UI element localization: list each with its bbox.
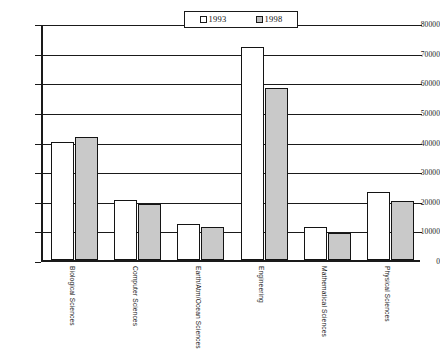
bar-1998-mathematical-sciences: [328, 233, 351, 260]
legend-item-1998: 1998: [256, 15, 283, 24]
bar-1998-biological-sciences: [75, 137, 98, 260]
bar-chart: 0100002000030000400005000060000700008000…: [0, 0, 440, 352]
gridline: [43, 144, 422, 145]
white-square-icon: [200, 16, 207, 23]
bar-1993-computer-sciences: [114, 200, 137, 260]
gridline: [43, 114, 422, 115]
plot-area: [41, 25, 420, 262]
legend-item-1993: 1993: [200, 15, 227, 24]
x-axis-label: Mathematical Sciences: [321, 266, 328, 337]
x-axis-label-group: Biological Sciences: [67, 266, 79, 350]
x-axis-label: Earth/Atm/Ocean Sciences: [195, 266, 202, 349]
gridline: [43, 232, 422, 233]
x-axis-label-group: Computer Sciences: [130, 266, 142, 350]
x-axis-label-group: Physical Sciences: [382, 266, 394, 350]
x-axis-label-group: Earth/Atm/Ocean Sciences: [193, 266, 205, 350]
bar-1993-engineering: [241, 47, 264, 260]
gridline: [43, 173, 422, 174]
x-axis-label: Biological Sciences: [69, 266, 76, 326]
gridline: [43, 84, 422, 85]
bar-1998-computer-sciences: [138, 204, 161, 260]
x-axis-label: Physical Sciences: [384, 266, 391, 322]
bar-1993-physical-sciences: [367, 192, 390, 260]
x-axis-label: Computer Sciences: [132, 266, 139, 326]
x-axis-label-group: Engineering: [256, 266, 268, 350]
gray-square-icon: [256, 16, 263, 23]
bar-1998-engineering: [265, 88, 288, 260]
x-axis-label-group: Mathematical Sciences: [319, 266, 331, 350]
legend-label-1998: 1998: [265, 15, 283, 24]
legend-label-1993: 1993: [209, 15, 227, 24]
y-axis-tick: [35, 262, 41, 263]
bar-1993-biological-sciences: [51, 142, 74, 261]
bar-1993-earth-atm-ocean-sciences: [177, 224, 200, 260]
bar-1993-mathematical-sciences: [304, 227, 327, 260]
bar-1998-physical-sciences: [391, 201, 414, 260]
x-axis-label: Engineering: [258, 266, 265, 303]
gridline: [43, 55, 422, 56]
legend: 1993 1998: [184, 11, 298, 28]
gridline: [43, 203, 422, 204]
bar-1998-earth-atm-ocean-sciences: [201, 227, 224, 260]
